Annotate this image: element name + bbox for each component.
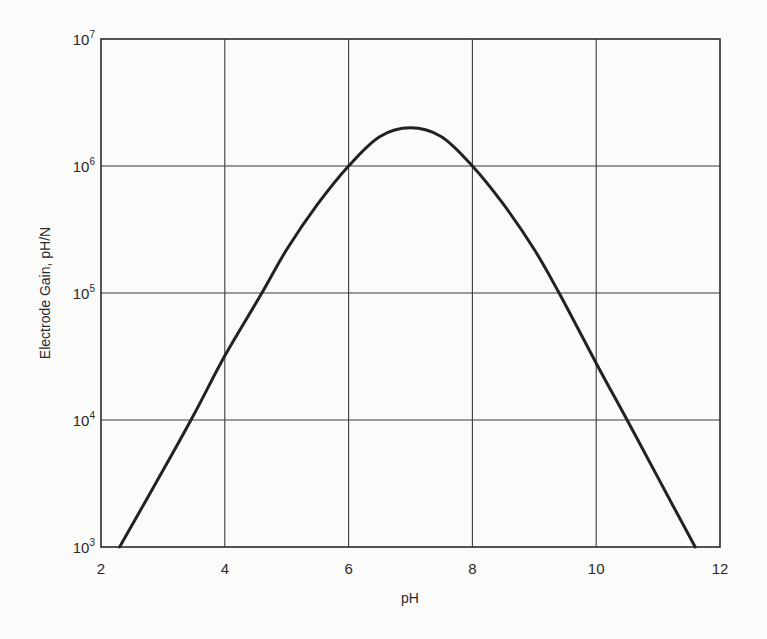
x-tick-label: 12 xyxy=(712,560,729,577)
y-tick-label: 106 xyxy=(73,156,96,175)
x-axis-label: pH xyxy=(401,590,419,606)
x-tick-label: 10 xyxy=(588,560,605,577)
y-tick-label: 103 xyxy=(73,537,96,556)
x-tick-label: 2 xyxy=(97,560,105,577)
x-tick-label: 4 xyxy=(221,560,229,577)
x-tick-label: 8 xyxy=(468,560,476,577)
grid-lines xyxy=(101,39,720,547)
y-axis-label: Electrode Gain, pH/N xyxy=(37,227,53,359)
y-tick-label: 107 xyxy=(73,29,96,48)
gain-curve xyxy=(120,128,696,547)
y-tick-label: 104 xyxy=(73,410,96,429)
x-tick-labels: 24681012 xyxy=(97,560,729,577)
x-tick-label: 6 xyxy=(344,560,352,577)
y-tick-labels: 103104105106107 xyxy=(73,29,96,556)
y-tick-label: 105 xyxy=(73,283,96,302)
chart: 24681012 103104105106107 pH Electrode Ga… xyxy=(0,0,767,639)
